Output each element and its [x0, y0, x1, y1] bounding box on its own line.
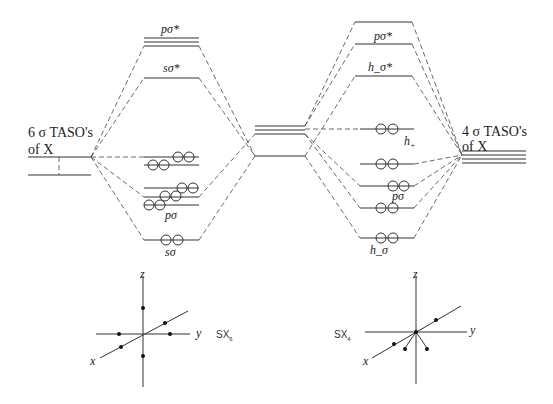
- label-h-plus: h+: [404, 134, 415, 150]
- left-electrons: [144, 152, 198, 245]
- sx4-axes: [365, 276, 467, 384]
- label-h-minus-sigma-star: h_σ*: [368, 60, 392, 74]
- right-mo-levels: [355, 22, 414, 238]
- label-p-sigma-star-right: pσ*: [373, 29, 392, 43]
- sx6-label: SX6: [216, 329, 233, 342]
- sx6-axes: [96, 276, 190, 387]
- sx6-y-axis-label: y: [195, 326, 202, 340]
- sx6-x-axis-label: x: [89, 354, 96, 368]
- right-correlation-lines: [305, 22, 462, 238]
- label-h-minus-sigma: h_σ: [370, 243, 389, 257]
- label-p-sigma-left: pσ: [164, 208, 178, 222]
- label-p-sigma-right: pσ: [391, 189, 405, 203]
- label-s-sigma-star-left: sσ*: [163, 61, 180, 75]
- sx4-z-axis-label: z: [412, 267, 418, 281]
- right-ligand-label-1: 4 σ TASO's: [462, 124, 527, 139]
- left-ligand-levels: [28, 157, 91, 175]
- sx4-label: SX4: [334, 329, 351, 342]
- right-ligand-label-2: of X: [462, 139, 487, 154]
- sx6-z-axis-label: z: [139, 267, 145, 281]
- label-s-sigma-left: sσ: [165, 245, 177, 259]
- sx4-x-axis-label: x: [362, 354, 369, 368]
- left-ligand-label-2: of X: [28, 142, 53, 157]
- sx4-y-axis-label: y: [469, 323, 476, 337]
- label-p-sigma-star-left: pσ*: [160, 22, 179, 36]
- left-ligand-label-1: 6 σ TASO's: [28, 125, 93, 140]
- central-s-levels: [255, 126, 305, 156]
- mo-diagram: 6 σ TASO's of X pσ* sσ* pσ sσ: [0, 0, 553, 404]
